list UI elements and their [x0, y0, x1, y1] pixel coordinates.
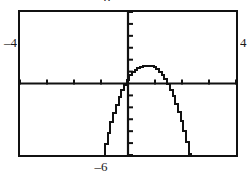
- axis-label-xmin: –4: [0, 36, 17, 49]
- axis-label-ymin: –6: [80, 160, 122, 173]
- axis-label-ymax: 6: [92, 0, 122, 1]
- plot-canvas: [20, 12, 236, 155]
- curve-layer: [102, 66, 197, 155]
- curve-parabola: [102, 66, 197, 155]
- graph-screenshot: 6 –4 4 –6: [0, 0, 250, 181]
- plot-area: [20, 12, 236, 155]
- plot-frame: [18, 10, 238, 157]
- axis-label-xmax: 4: [240, 36, 250, 49]
